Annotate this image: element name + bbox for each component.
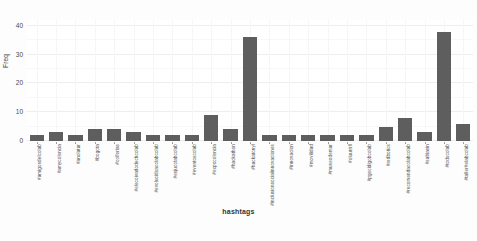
y-tick-label: 20 — [16, 80, 23, 87]
bar[interactable] — [359, 135, 373, 141]
x-tick-label: #innovacion — [290, 144, 295, 170]
x-tick-label: #redbotics — [387, 144, 392, 166]
x-tick-label: #hackathon — [232, 144, 237, 169]
x-tick-label: #inclusionsocialinnovaciones — [271, 144, 276, 206]
bar[interactable] — [320, 135, 334, 141]
bars-layer — [27, 20, 473, 141]
y-tick-label: 30 — [16, 51, 23, 58]
bar[interactable] — [165, 135, 179, 141]
x-tick-label: #amycolencia — [58, 144, 63, 173]
x-tick-label: #esjucolabcolab — [174, 144, 179, 178]
x-tick-label: #taller#elabcolab — [465, 144, 470, 180]
bar[interactable] — [379, 127, 393, 141]
x-tick-label: #eventoscolab — [193, 144, 198, 175]
x-tick-label: #todocolab — [446, 144, 451, 167]
bar[interactable] — [301, 135, 315, 141]
x-tick-label: #movilidad — [310, 144, 315, 167]
x-tick-label: #amigosdelcolab — [38, 144, 43, 180]
bar[interactable] — [49, 132, 63, 141]
x-tick-label: #colferias — [116, 144, 121, 165]
bar[interactable] — [223, 129, 237, 141]
bar[interactable] — [243, 37, 257, 141]
bar[interactable] — [340, 135, 354, 141]
bar[interactable] — [398, 118, 412, 141]
bar[interactable] — [185, 135, 199, 141]
bar[interactable] — [146, 135, 160, 141]
x-tick-label: #pgecidigobcolab — [368, 144, 373, 181]
bar[interactable] — [30, 135, 44, 141]
bar[interactable] — [107, 129, 121, 141]
x-tick-label: #oluurrrll — [349, 144, 354, 163]
x-tick-label: #sabiasin — [426, 144, 431, 164]
x-tick-label: #bogota — [96, 144, 101, 161]
bar[interactable] — [68, 135, 82, 141]
bar-chart: 010203040 Freq #amigosdelcolab#amycolenc… — [0, 0, 477, 241]
bar[interactable] — [437, 32, 451, 141]
y-tick-label: 40 — [16, 23, 23, 30]
x-axis-labels: #amigosdelcolab#amycolencia#anolatur#bog… — [27, 142, 473, 204]
x-tick-label: #elecoivadodechcolab — [135, 144, 140, 191]
x-tick-label: #hackatonyl — [252, 144, 257, 170]
bar[interactable] — [262, 135, 276, 141]
bar[interactable] — [88, 129, 102, 141]
bar[interactable] — [204, 115, 218, 141]
y-axis: 010203040 — [0, 20, 27, 141]
x-tick-label: #expocolencia — [213, 144, 218, 175]
y-axis-title: Freq — [2, 54, 9, 68]
x-axis-title: hashtags — [0, 208, 477, 215]
bar[interactable] — [417, 132, 431, 141]
bar[interactable] — [126, 132, 140, 141]
x-tick-label: #anolatur — [77, 144, 82, 164]
y-tick-label: 0 — [19, 138, 23, 145]
x-tick-label: #recomendacolabcolab — [407, 144, 412, 194]
y-tick-label: 10 — [16, 109, 23, 116]
x-tick-label: #evolucidoacolabcolab — [155, 144, 160, 193]
bar[interactable] — [282, 135, 296, 141]
x-tick-label: #museodemar — [329, 144, 334, 174]
bar[interactable] — [456, 124, 470, 141]
plot-area — [27, 20, 473, 141]
